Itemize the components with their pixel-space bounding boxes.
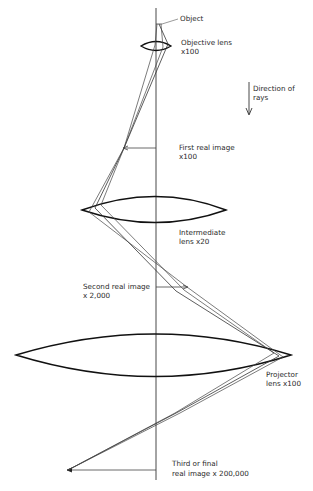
final-real-image [67, 468, 156, 472]
second-image-label-line2: x 2,000 [83, 291, 111, 300]
ray-a [68, 24, 279, 470]
projector-lens [16, 334, 291, 377]
objective-lens-label-line2: x100 [181, 47, 199, 56]
intermediate-lens [82, 197, 226, 223]
object-label: Object [180, 14, 204, 23]
final-image-label-line2: real image x 200,000 [172, 469, 249, 478]
ray-c [68, 24, 283, 470]
objective-lens-label-line1: Objective lens [181, 38, 232, 47]
direction-arrow [246, 82, 252, 115]
direction-label-line2: rays [253, 93, 269, 102]
final-image-label-line1: Third or final [171, 459, 218, 468]
first-image-label-line2: x100 [179, 152, 197, 161]
object-marker [156, 19, 178, 24]
second-image-label-line1: Second real image [83, 282, 151, 291]
intermediate-lens-label-line1: Intermediate [179, 228, 226, 237]
electron-microscope-ray-diagram: Object Objective lens x100 Direction of … [0, 0, 313, 491]
direction-label-line1: Direction of [253, 84, 295, 93]
intermediate-lens-label-line2: lens x20 [179, 237, 210, 246]
projector-lens-label-line2: lens x100 [266, 379, 301, 388]
ray-bundle [68, 24, 283, 470]
projector-lens-label-line1: Projector [266, 370, 298, 379]
first-real-image [123, 146, 156, 150]
first-image-label-line1: First real image [179, 143, 235, 152]
ray-b [68, 24, 274, 470]
